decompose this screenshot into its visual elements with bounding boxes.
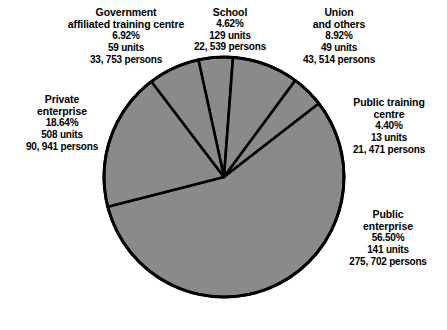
slice-label-title-line2: enterprise [330, 220, 446, 232]
slice-label-percent: 56.50% [330, 232, 446, 244]
slice-label-units: 13 units [334, 132, 444, 144]
slice-label-title-line2: centre [334, 108, 444, 120]
slice-label-title-line2: and others [286, 18, 392, 30]
slice-label-percent: 4.62% [176, 18, 284, 30]
slice-label-percent: 8.92% [286, 30, 392, 42]
slice-label-persons: 22, 539 persons [176, 41, 284, 53]
slice-label-units: 49 units [286, 42, 392, 54]
slice-label-units: 141 units [330, 244, 446, 256]
slice-label-title-line1: School [176, 6, 284, 18]
slice-label-persons: 21, 471 persons [334, 144, 444, 156]
slice-label-title-line2: enterprise [6, 105, 118, 117]
slice-label-title-line1: Private [6, 93, 118, 105]
slice-label-title-line1: Union [286, 6, 392, 18]
slice-label-percent: 4.40% [334, 120, 444, 132]
slice-label-persons: 33, 753 persons [52, 54, 200, 66]
slice-label-percent: 18.64% [6, 117, 118, 129]
slice-label-persons: 43, 514 persons [286, 54, 392, 66]
slice-label-title-line1: Public [330, 208, 446, 220]
slice-label-private-enterprise: Private enterprise 18.64% 508 units 90, … [6, 93, 118, 152]
pie-chart-figure: Government affiliated training centre 6.… [0, 0, 447, 330]
slice-label-public-training-centre: Public training centre 4.40% 13 units 21… [334, 96, 444, 155]
slice-label-units: 508 units [6, 129, 118, 141]
slice-label-persons: 275, 702 persons [330, 256, 446, 268]
slice-label-school: School 4.62% 129 units 22, 539 persons [176, 6, 284, 53]
slice-label-units: 129 units [176, 30, 284, 42]
slice-label-public-enterprise: Public enterprise 56.50% 141 units 275, … [330, 208, 446, 267]
slice-label-persons: 90, 941 persons [6, 141, 118, 153]
slice-label-union-and-others: Union and others 8.92% 49 units 43, 514 … [286, 6, 392, 65]
slice-label-title-line1: Public training [334, 96, 444, 108]
